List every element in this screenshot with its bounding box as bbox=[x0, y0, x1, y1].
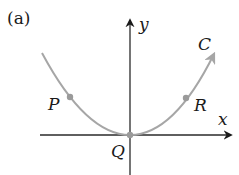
curve-label: C bbox=[198, 34, 211, 54]
point-r-label: R bbox=[193, 95, 207, 115]
point-r-dot bbox=[183, 95, 189, 101]
point-p-label: P bbox=[47, 94, 60, 114]
point-q-dot bbox=[127, 132, 133, 138]
x-axis-label: x bbox=[218, 109, 228, 129]
panel-label: (a) bbox=[7, 8, 30, 28]
point-p-dot bbox=[67, 94, 73, 100]
parabola-diagram: (a) y x C P Q R bbox=[0, 0, 239, 175]
point-q-label: Q bbox=[111, 141, 125, 161]
y-axis-label: y bbox=[138, 14, 149, 34]
curve-c bbox=[42, 53, 214, 135]
